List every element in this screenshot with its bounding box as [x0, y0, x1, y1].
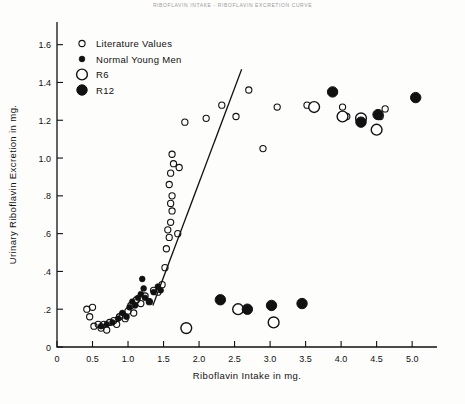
y-tick-label: 1.6: [38, 40, 51, 50]
figure-root: RIBOFLAVIN INTAKE - RIBOFLAVIN EXCRETION…: [0, 0, 465, 404]
x-tick-label: 0: [54, 354, 59, 364]
data-point: [151, 289, 157, 295]
data-point: [163, 246, 169, 252]
data-point: [104, 327, 110, 333]
data-point: [110, 320, 116, 326]
data-point: [169, 208, 175, 214]
data-point: [146, 299, 152, 305]
data-point: [115, 316, 121, 322]
x-tick-label: 3.5: [299, 354, 312, 364]
y-axis-title: Urinary Riboflavin Excretion in mg.: [7, 105, 18, 265]
data-point: [233, 113, 239, 119]
data-point: [339, 104, 345, 110]
y-tick-label: .8: [43, 191, 51, 201]
x-tick-label: 4.5: [370, 354, 383, 364]
x-axis-title: Riboflavin Intake in mg.: [193, 370, 301, 381]
legend-marker: [77, 69, 88, 80]
data-point: [242, 304, 252, 314]
x-tick-label: 2.0: [193, 354, 206, 364]
data-point: [266, 300, 276, 310]
data-point: [181, 323, 192, 334]
data-point: [268, 317, 279, 328]
legend-marker: [79, 56, 85, 62]
legend-label: R12: [96, 85, 114, 96]
y-tick-label: 0: [46, 343, 51, 353]
data-point: [382, 106, 388, 112]
y-tick-label: .4: [43, 267, 51, 277]
legend-label: Normal Young Men: [96, 54, 182, 65]
data-point: [168, 200, 174, 206]
y-tick-label: 1.2: [38, 116, 51, 126]
data-point: [127, 304, 133, 310]
data-point: [104, 321, 110, 327]
data-point: [131, 310, 137, 316]
x-tick-label: 1.0: [122, 354, 135, 364]
legend-marker: [79, 40, 85, 46]
y-tick-label: .6: [43, 229, 51, 239]
data-point: [260, 145, 266, 151]
data-point: [274, 104, 280, 110]
x-tick-label: 0.5: [86, 354, 99, 364]
legend-marker: [77, 85, 87, 95]
data-point: [169, 193, 175, 199]
data-point: [356, 117, 366, 127]
legend-label: Literature Values: [96, 38, 172, 49]
data-point: [138, 300, 144, 306]
y-tick-label: .2: [43, 305, 51, 315]
data-point: [168, 170, 174, 176]
data-point: [203, 115, 209, 121]
plot-axes: [57, 22, 437, 347]
data-point: [166, 234, 172, 240]
data-point: [309, 102, 320, 113]
data-point: [337, 111, 348, 122]
data-point: [182, 119, 188, 125]
data-point: [215, 295, 225, 305]
data-point: [124, 314, 130, 320]
data-point: [166, 181, 172, 187]
legend-label: R6: [96, 69, 109, 80]
data-point: [219, 102, 225, 108]
data-point: [373, 109, 383, 119]
data-point: [169, 151, 175, 157]
y-tick-label: 1.4: [38, 78, 51, 88]
x-tick-label: 3.0: [264, 354, 277, 364]
data-point: [87, 314, 93, 320]
y-tick-label: 1.0: [38, 154, 51, 164]
data-point: [89, 304, 95, 310]
data-point: [297, 298, 307, 308]
data-point: [158, 287, 164, 293]
x-tick-label: 2.5: [228, 354, 241, 364]
data-point: [170, 161, 176, 167]
x-tick-label: 5.0: [406, 354, 419, 364]
data-point: [168, 219, 174, 225]
x-tick-label: 1.5: [157, 354, 170, 364]
data-point: [98, 323, 104, 329]
data-point: [165, 227, 171, 233]
data-point: [327, 87, 337, 97]
data-point: [176, 164, 182, 170]
data-point: [246, 87, 252, 93]
data-point: [139, 276, 145, 282]
data-point: [371, 124, 382, 135]
x-tick-label: 4.0: [335, 354, 348, 364]
data-point: [410, 92, 420, 102]
data-point: [141, 286, 147, 292]
data-point: [132, 303, 138, 309]
riboflavin-scatter-chart: 00.51.01.52.02.53.03.54.04.55.00.2.4.6.8…: [0, 0, 465, 404]
